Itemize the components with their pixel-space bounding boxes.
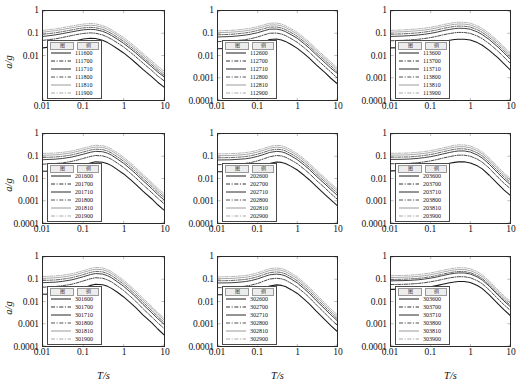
legend-item[interactable]: 203800: [398, 196, 447, 204]
legend-item[interactable]: 202600: [225, 172, 274, 180]
legend-item[interactable]: 111810: [50, 81, 99, 89]
legend-item[interactable]: 301800: [50, 319, 99, 327]
legend-item[interactable]: 302710: [225, 311, 274, 319]
legend-item[interactable]: 203600: [398, 172, 447, 180]
legend-label: 301800: [72, 320, 93, 326]
y-tick-label: 0.001: [366, 319, 387, 329]
legend-item[interactable]: 302600: [225, 295, 274, 303]
legend-item[interactable]: 301600: [50, 295, 99, 303]
legend-item[interactable]: 113700: [398, 57, 447, 65]
legend-label: 112800: [247, 74, 268, 80]
legend-item[interactable]: 203810: [398, 204, 447, 212]
figure-caption: [0, 369, 519, 378]
legend-line-swatch: [50, 319, 72, 327]
legend-item[interactable]: 203710: [398, 188, 447, 196]
legend-item[interactable]: 202800: [225, 196, 274, 204]
legend-line-swatch: [398, 319, 420, 327]
legend-label: 111900: [72, 90, 93, 96]
legend-label: 201800: [72, 197, 93, 203]
legend-item[interactable]: 201710: [50, 188, 99, 196]
legend-item[interactable]: 112700: [225, 57, 274, 65]
legend-item[interactable]: 113600: [398, 49, 447, 57]
x-tick-label: 0.1: [424, 224, 436, 234]
legend-label: 302700: [247, 304, 268, 310]
legend-item[interactable]: 111710: [50, 65, 99, 73]
legend-item[interactable]: 112710: [225, 65, 274, 73]
legend-item[interactable]: 201810: [50, 204, 99, 212]
legend[interactable]: 图例203600203700203710203800203810203900: [395, 163, 450, 222]
legend-item[interactable]: 303710: [398, 311, 447, 319]
y-tick-label: 0.01: [371, 51, 387, 61]
legend-item[interactable]: 113900: [398, 89, 447, 97]
plot-panel-r2c3: 图例20360020370020371020380020381020390010…: [346, 123, 519, 246]
legend-header: 图例: [398, 42, 447, 49]
y-tick-label: 0.0001: [188, 96, 214, 106]
legend-item[interactable]: 111600: [50, 49, 99, 57]
legend-item[interactable]: 201900: [50, 212, 99, 220]
y-tick-label: 1: [209, 128, 214, 138]
legend-item[interactable]: 203900: [398, 212, 447, 220]
y-tick-label: 0.001: [193, 319, 214, 329]
legend[interactable]: 图例301600301700301710301800301810301900: [47, 286, 102, 345]
x-tick-labels: 0.010.1110: [217, 101, 338, 113]
legend-item[interactable]: 111800: [50, 73, 99, 81]
y-tick-label: 0.0001: [361, 342, 387, 352]
legend-item[interactable]: 113710: [398, 65, 447, 73]
plot-panel-r1c3: 图例11360011370011371011380011381011390010…: [346, 0, 519, 123]
legend-item[interactable]: 303810: [398, 327, 447, 335]
y-tick-label: 0.1: [375, 28, 387, 38]
legend-item[interactable]: 112810: [225, 81, 274, 89]
legend-item[interactable]: 202810: [225, 204, 274, 212]
legend-label: 113700: [420, 58, 441, 64]
legend-item[interactable]: 201600: [50, 172, 99, 180]
y-tick-labels: 10.10.010.0010.0001: [346, 133, 390, 224]
x-tick-label: 0.01: [209, 347, 226, 357]
legend-item[interactable]: 201800: [50, 196, 99, 204]
legend-item[interactable]: 302800: [225, 319, 274, 327]
plot-panel-r3c2: 图例30260030270030271030280030281030290010…: [173, 246, 346, 369]
legend-item[interactable]: 301700: [50, 303, 99, 311]
legend-item[interactable]: 303800: [398, 319, 447, 327]
legend-item[interactable]: 202700: [225, 180, 274, 188]
legend-item[interactable]: 301710: [50, 311, 99, 319]
legend[interactable]: 图例111600111700111710111800111810111900: [47, 40, 102, 99]
legend-item[interactable]: 111700: [50, 57, 99, 65]
legend-label: 203600: [420, 173, 441, 179]
x-tick-label: 1: [468, 101, 473, 111]
legend-item[interactable]: 303900: [398, 335, 447, 343]
legend-item[interactable]: 113810: [398, 81, 447, 89]
legend-item[interactable]: 203700: [398, 180, 447, 188]
legend[interactable]: 图例303600303700303710303800303810303900: [395, 286, 450, 345]
legend-label: 301900: [72, 336, 93, 342]
legend-item[interactable]: 301900: [50, 335, 99, 343]
legend[interactable]: 图例202600202700202710202800202810202900: [222, 163, 277, 222]
legend[interactable]: 图例201600201700201710201800201810201900: [47, 163, 102, 222]
y-tick-label: 0.001: [193, 73, 214, 83]
legend[interactable]: 图例112600112700112710112800112810112900: [222, 40, 277, 99]
legend-line-swatch: [50, 335, 72, 343]
legend-line-swatch: [50, 73, 72, 81]
legend[interactable]: 图例113600113700113710113800113810113900: [395, 40, 450, 99]
legend-item[interactable]: 113800: [398, 73, 447, 81]
legend-item[interactable]: 112900: [225, 89, 274, 97]
legend-item[interactable]: 201700: [50, 180, 99, 188]
legend-item[interactable]: 301810: [50, 327, 99, 335]
y-tick-label: 0.01: [23, 174, 39, 184]
legend-item[interactable]: 112800: [225, 73, 274, 81]
legend-header-cell-2: 例: [252, 165, 274, 173]
legend-line-swatch: [225, 81, 247, 89]
legend-item[interactable]: 303600: [398, 295, 447, 303]
legend-item[interactable]: 303700: [398, 303, 447, 311]
plot-panel-r1c1: a/g图例11160011170011171011180011181011190…: [0, 0, 173, 123]
legend-line-swatch: [225, 57, 247, 65]
legend-item[interactable]: 112600: [225, 49, 274, 57]
legend-item[interactable]: 202710: [225, 188, 274, 196]
legend-item[interactable]: 302810: [225, 327, 274, 335]
x-tick-labels: 0.010.1110: [390, 347, 511, 359]
legend[interactable]: 图例302600302700302710302800302810302900: [222, 286, 277, 345]
legend-item[interactable]: 302900: [225, 335, 274, 343]
legend-line-swatch: [398, 81, 420, 89]
legend-item[interactable]: 111900: [50, 89, 99, 97]
legend-item[interactable]: 202900: [225, 212, 274, 220]
legend-item[interactable]: 302700: [225, 303, 274, 311]
